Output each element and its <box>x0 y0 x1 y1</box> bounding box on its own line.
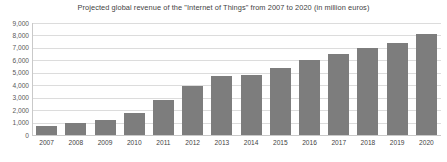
bar <box>387 43 408 135</box>
y-axis-tick-label: 9,000 <box>1 20 29 27</box>
y-axis-tick-label: 2,000 <box>1 107 29 114</box>
bar <box>299 60 320 135</box>
bar <box>270 68 291 135</box>
bar <box>241 75 262 135</box>
x-axis-tick-label: 2019 <box>383 139 412 147</box>
bar <box>328 54 349 135</box>
y-axis-tick-label: 3,000 <box>1 94 29 101</box>
x-axis-tick-label: 2008 <box>61 139 90 147</box>
y-axis-tick-label: 5,000 <box>1 69 29 76</box>
bar <box>95 120 116 135</box>
y-axis: 9,0008,0007,0006,0005,0004,0003,0002,000… <box>0 0 29 162</box>
bar <box>153 100 174 135</box>
x-axis-tick-label: 2015 <box>266 139 295 147</box>
y-axis-tick-label: 8,000 <box>1 32 29 39</box>
y-axis-tick-label: 0 <box>1 132 29 139</box>
x-axis-tick-label: 2016 <box>295 139 324 147</box>
x-axis-tick-label: 2007 <box>32 139 61 147</box>
bar <box>182 86 203 135</box>
y-axis-tick-label: 1,000 <box>1 119 29 126</box>
bar <box>124 113 145 135</box>
y-axis-tick-label: 7,000 <box>1 44 29 51</box>
bar <box>65 123 86 135</box>
x-axis-tick-label: 2010 <box>120 139 149 147</box>
x-axis-tick-label: 2018 <box>353 139 382 147</box>
bars-layer <box>32 23 441 135</box>
y-axis-tick-label: 4,000 <box>1 82 29 89</box>
x-axis-tick-label: 2020 <box>412 139 441 147</box>
y-axis-tick-label: 6,000 <box>1 57 29 64</box>
bar <box>36 126 57 135</box>
bar <box>357 48 378 135</box>
x-axis-tick-label: 2013 <box>207 139 236 147</box>
chart-title: Projected global revenue of the "Interne… <box>0 3 447 12</box>
x-axis-tick-label: 2014 <box>237 139 266 147</box>
bar <box>211 76 232 135</box>
x-axis-line <box>32 135 441 136</box>
x-axis-tick-label: 2012 <box>178 139 207 147</box>
x-axis-tick-label: 2009 <box>90 139 119 147</box>
bar-chart: Projected global revenue of the "Interne… <box>0 0 447 162</box>
bar <box>416 34 437 135</box>
x-axis-tick-label: 2017 <box>324 139 353 147</box>
x-axis-tick-label: 2011 <box>149 139 178 147</box>
